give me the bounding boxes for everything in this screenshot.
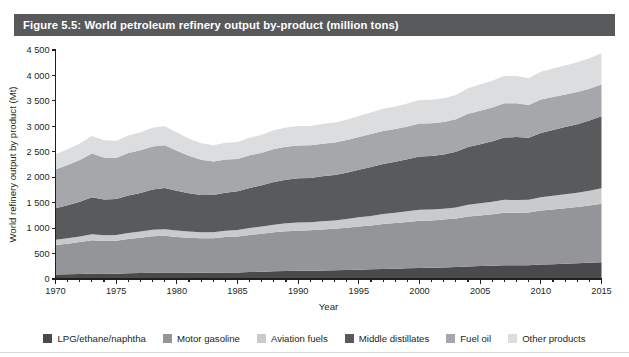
y-axis-tick-label: 1 500 [27,198,50,208]
chart-legend: LPG/ethane/naphtha Motor gasoline Aviati… [14,328,615,348]
y-axis-title: World refinery output by product (Mt) [7,86,18,242]
y-axis-tick-label: 2 000 [27,172,50,182]
legend-item-label: LPG/ethane/naphtha [57,333,146,344]
figure-title-bar: Figure 5.5: World petroleum refinery out… [14,14,615,36]
y-axis-tick-label: 3 500 [27,96,50,106]
square-swatch-icon [345,334,354,343]
footer-divider [0,352,629,353]
x-axis-title: Year [319,301,339,312]
legend-item-motor-gasoline[interactable]: Motor gasoline [163,333,240,344]
x-axis-tick-label: 1975 [106,286,126,296]
x-axis-tick-label: 1990 [288,286,308,296]
square-swatch-icon [43,334,52,343]
figure-container: Figure 5.5: World petroleum refinery out… [0,0,629,357]
x-axis-tick-label: 1985 [227,286,247,296]
y-axis-tick-label: 0 [44,274,49,284]
x-axis-tick-label: 1970 [45,286,65,296]
x-axis-tick-label: 1980 [167,286,187,296]
legend-item-label: Other products [522,333,585,344]
x-axis-tick-label: 1995 [349,286,369,296]
x-axis-tick-label: 2010 [531,286,551,296]
stacked-area-series-group [56,53,602,279]
legend-item-label: Middle distillates [359,333,429,344]
legend-item-lpg-ethane-naphtha[interactable]: LPG/ethane/naphtha [43,333,146,344]
square-swatch-icon [446,334,455,343]
legend-item-label: Motor gasoline [177,333,240,344]
x-axis-tick-label: 2015 [591,286,611,296]
legend-item-fuel-oil[interactable]: Fuel oil [446,333,491,344]
y-axis-tick-label: 500 [34,249,49,259]
page-title: Figure 5.5: World petroleum refinery out… [14,19,399,31]
chart-plot-area: 05001 0001 5002 0002 5003 0003 5004 0004… [0,36,629,321]
x-axis-tick-label: 2005 [470,286,490,296]
legend-item-label: Fuel oil [460,333,491,344]
y-axis-tick-label: 3 000 [27,122,50,132]
legend-item-aviation-fuels[interactable]: Aviation fuels [257,333,328,344]
square-swatch-icon [508,334,517,343]
legend-item-label: Aviation fuels [271,333,328,344]
y-axis-tick-label: 4 000 [27,71,50,81]
y-axis-tick-label: 2 500 [27,147,50,157]
square-swatch-icon [257,334,266,343]
y-axis-tick-label: 1 000 [27,223,50,233]
y-axis-tick-label: 4 500 [27,45,50,55]
x-axis-tick-label: 2000 [409,286,429,296]
legend-item-other-products[interactable]: Other products [508,333,585,344]
square-swatch-icon [163,334,172,343]
legend-item-middle-distillates[interactable]: Middle distillates [345,333,429,344]
